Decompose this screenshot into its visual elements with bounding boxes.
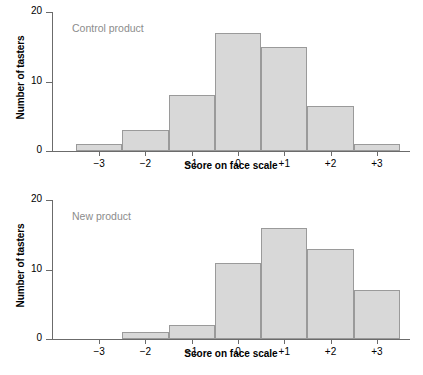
bar-bottom-minus2 [122, 332, 168, 339]
y-tick-20-bottom: 20 [46, 200, 52, 201]
y-axis-label-bottom: Number of tasters [15, 201, 26, 331]
x-tick-top-1 [145, 151, 146, 156]
x-tick-top-0 [99, 151, 100, 156]
chart-panel-control: Number of tasters 0 10 20 [0, 0, 423, 187]
y-tick-20-top: 20 [46, 12, 52, 13]
y-axis-label-top: Number of tasters [15, 13, 26, 143]
chart-panel-new: Number of tasters 0 10 20 [0, 188, 423, 375]
y-tick-label-10-top: 10 [31, 75, 42, 86]
x-tick-bottom-2 [192, 339, 193, 344]
y-tick-10-bottom: 10 [46, 270, 52, 271]
panel-title-control: Control product [72, 22, 144, 34]
bar-bottom-zero [215, 263, 261, 339]
x-tick-top-5 [331, 151, 332, 156]
x-tick-bottom-4 [284, 339, 285, 344]
x-tick-bottom-6 [377, 339, 378, 344]
x-axis-line-top [52, 151, 410, 152]
x-tick-top-4 [284, 151, 285, 156]
x-tick-top-6 [377, 151, 378, 156]
bar-bottom-plus2 [307, 249, 353, 339]
y-tick-label-0-top: 0 [36, 144, 42, 155]
x-axis-label-top: Score on face scale [52, 160, 410, 171]
x-axis-label-bottom: Score on face scale [52, 348, 410, 359]
x-tick-top-3 [238, 151, 239, 156]
x-axis-line-bottom [52, 339, 410, 340]
y-tick-label-10-bottom: 10 [31, 263, 42, 274]
y-tick-label-0-bottom: 0 [36, 332, 42, 343]
bar-bottom-minus1 [169, 325, 215, 339]
y-tick-label-20-bottom: 20 [31, 193, 42, 204]
bar-top-plus2 [307, 106, 353, 151]
x-tick-bottom-3 [238, 339, 239, 344]
y-tick-label-20-top: 20 [31, 5, 42, 16]
y-tick-10-top: 10 [46, 82, 52, 83]
bar-bottom-plus1 [261, 228, 307, 339]
bar-bottom-plus3 [354, 290, 400, 339]
y-axis-line-bottom [52, 200, 53, 339]
y-tick-0-bottom: 0 [46, 339, 52, 340]
y-tick-0-top: 0 [46, 151, 52, 152]
bar-top-minus3 [76, 144, 122, 151]
bar-top-minus2 [122, 130, 168, 151]
bar-top-zero [215, 33, 261, 151]
y-axis-line-top [52, 12, 53, 151]
bar-top-plus1 [261, 47, 307, 151]
x-tick-bottom-5 [331, 339, 332, 344]
x-tick-bottom-1 [145, 339, 146, 344]
x-tick-top-2 [192, 151, 193, 156]
bar-top-minus1 [169, 95, 215, 151]
x-tick-bottom-0 [99, 339, 100, 344]
panel-title-new: New product [72, 210, 131, 222]
bar-top-plus3 [354, 144, 400, 151]
histogram-figure: Number of tasters 0 10 20 [0, 0, 423, 375]
